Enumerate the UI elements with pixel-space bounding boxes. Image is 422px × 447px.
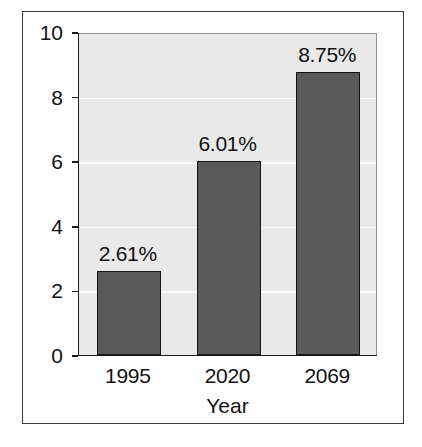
- x-axis-tick-label: 2069: [267, 364, 387, 388]
- bar[interactable]: [197, 161, 261, 355]
- plot-area: [78, 33, 377, 356]
- bar-value-label: 2.61%: [68, 242, 188, 266]
- y-axis-tick-label: 2: [0, 280, 63, 301]
- y-axis-tick-mark: [72, 32, 78, 34]
- bar[interactable]: [296, 72, 360, 355]
- y-axis-tick-label: 0: [0, 345, 63, 366]
- y-axis-tick-mark: [72, 97, 78, 99]
- y-axis-tick-label: 6: [0, 151, 63, 172]
- y-axis-tick-label: 8: [0, 87, 63, 108]
- x-axis-title: Year: [78, 394, 377, 418]
- bar[interactable]: [97, 271, 161, 355]
- y-axis-tick-mark: [72, 291, 78, 293]
- y-axis-tick-mark: [72, 226, 78, 228]
- bar-chart-figure: Year 02468102.61%19956.01%20208.75%2069: [0, 0, 422, 447]
- bar-value-label: 8.75%: [267, 43, 387, 67]
- y-axis-tick-mark: [72, 161, 78, 163]
- y-axis-tick-label: 10: [0, 22, 63, 43]
- y-axis-tick-label: 4: [0, 216, 63, 237]
- bar-value-label: 6.01%: [168, 132, 288, 156]
- y-axis-tick-mark: [72, 355, 78, 357]
